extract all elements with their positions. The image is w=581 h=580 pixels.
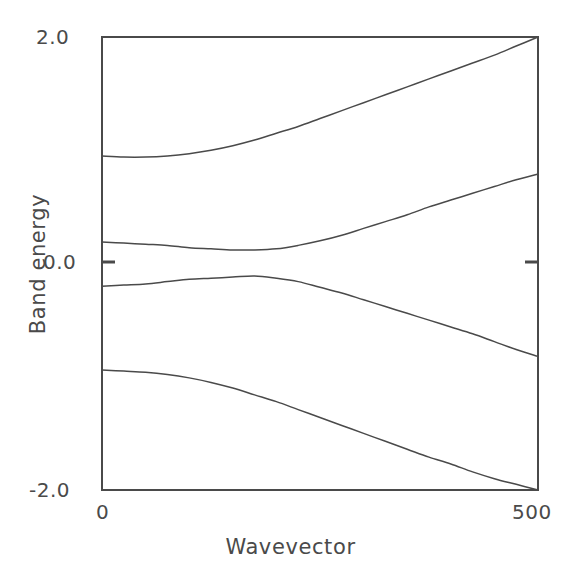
x-axis-tick-label-left: 0 (96, 500, 109, 524)
y-axis-tick-label-top: 2.0 (36, 25, 69, 49)
band-1-curve (102, 37, 538, 157)
plot-frame (102, 37, 538, 490)
x-axis-tick-label-right: 500 (512, 500, 552, 524)
plot-area (0, 0, 581, 580)
band-3-curve (102, 276, 538, 356)
band-curves-group (102, 37, 538, 490)
band-structure-figure: 2.0 0.0 -2.0 0 500 Band energy Wavevecto… (0, 0, 581, 580)
x-axis-title: Wavevector (0, 535, 581, 559)
y-axis-title: Band energy (26, 164, 50, 364)
band-4-curve (102, 370, 538, 490)
band-2-curve (102, 174, 538, 250)
y-axis-tick-label-bottom: -2.0 (29, 478, 70, 502)
